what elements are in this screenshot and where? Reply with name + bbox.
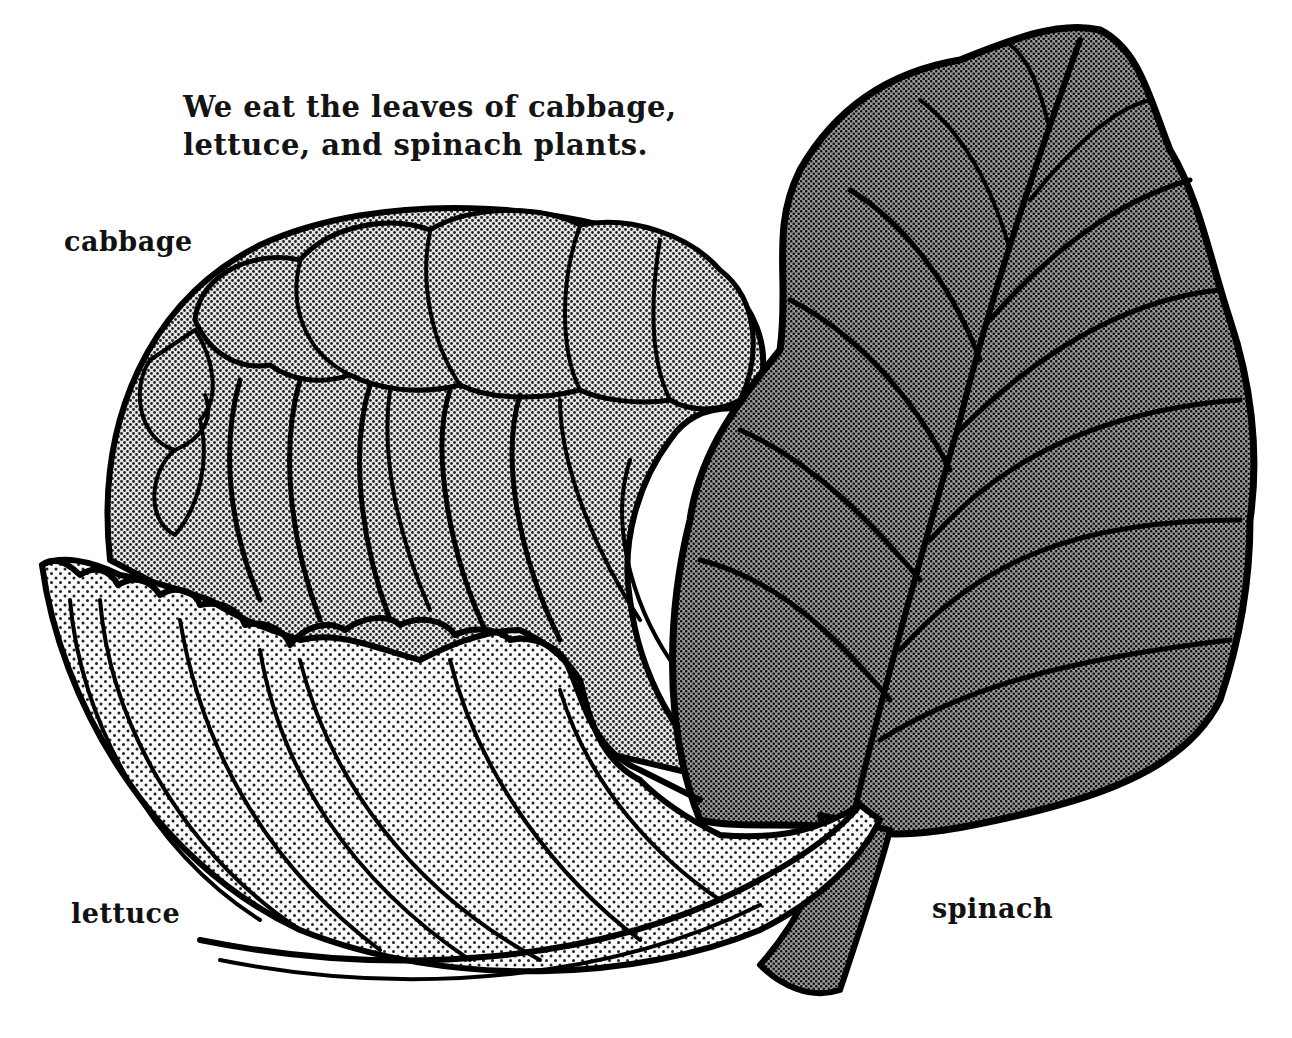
caption: We eat the leaves of cabbage, lettuce, a… [183,88,677,164]
label-cabbage: cabbage [64,226,193,257]
label-spinach: spinach [932,893,1053,924]
label-lettuce: lettuce [71,898,180,929]
caption-line-2: lettuce, and spinach plants. [183,126,677,164]
caption-line-1: We eat the leaves of cabbage, [183,88,677,126]
